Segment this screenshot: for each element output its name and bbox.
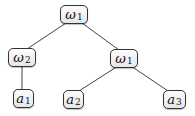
node-root: ω1 [60,5,88,24]
node-left: ω2 [8,48,36,67]
node-symbol: ω [115,51,126,66]
node-subscript: 2 [25,55,31,65]
edge-root-left [27,23,66,49]
node-symbol: ω [65,7,76,22]
node-symbol: ω [13,50,24,65]
node-subscript: 1 [127,56,133,66]
node-subscript: 1 [25,96,31,106]
node-subscript: 2 [75,97,81,107]
node-symbol: a [66,92,74,107]
node-leaf2: a2 [63,90,84,109]
edge-right-leaf3 [131,66,168,91]
node-right: ω1 [110,49,138,68]
node-symbol: a [16,91,24,106]
node-subscript: 1 [77,12,83,22]
node-symbol: a [167,92,175,107]
edge-root-right [82,23,119,50]
node-leaf1: a1 [13,89,34,108]
node-leaf3: a3 [163,90,186,109]
node-subscript: 3 [176,97,182,107]
edge-right-leaf2 [79,66,118,91]
